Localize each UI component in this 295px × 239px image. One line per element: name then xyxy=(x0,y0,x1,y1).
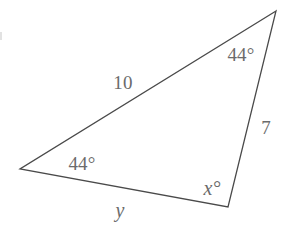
side-label-10: 10 xyxy=(113,73,132,92)
triangle-shape xyxy=(20,11,276,207)
angle-label-x: x° xyxy=(204,178,221,198)
side-label-y: y xyxy=(116,200,125,220)
side-label-7: 7 xyxy=(261,118,271,137)
angle-label-left: 44° xyxy=(68,154,95,173)
triangle-outline xyxy=(0,0,295,239)
triangle-figure: 44° 44° x° 10 7 y xyxy=(0,0,295,239)
angle-label-top: 44° xyxy=(227,45,254,64)
